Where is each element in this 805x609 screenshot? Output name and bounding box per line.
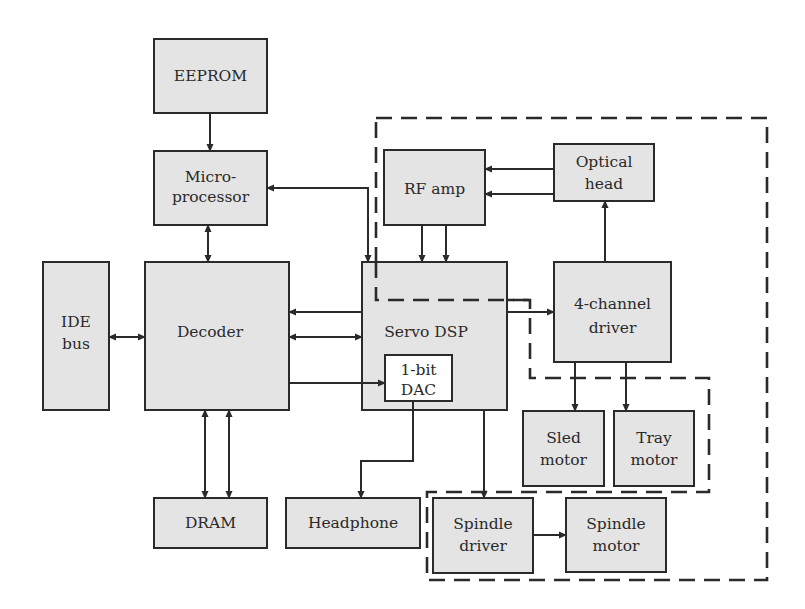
block-4-channel-driver: 4-channel driver [554, 262, 671, 362]
tray-motor-label-1: Tray [636, 429, 672, 447]
block-spindle-driver: Spindle driver [433, 498, 533, 573]
svg-text:Headphone: Headphone [308, 514, 398, 532]
svg-text:Tray: Tray [636, 429, 672, 447]
block-eeprom: EEPROM [154, 39, 267, 113]
four-channel-driver-label-2: driver [589, 319, 637, 337]
svg-text:driver: driver [589, 319, 637, 337]
dac-label-2: DAC [401, 381, 436, 399]
microprocessor-label-1: Micro- [185, 168, 237, 186]
svg-text:Servo DSP: Servo DSP [384, 323, 468, 341]
ide-bus-label-2: bus [62, 335, 90, 353]
svg-text:Decoder: Decoder [177, 323, 244, 341]
block-decoder: Decoder [145, 262, 289, 410]
block-sled-motor: Sled motor [523, 411, 604, 486]
spindle-driver-label-2: driver [459, 537, 507, 555]
svg-text:motor: motor [593, 537, 641, 555]
svg-text:Spindle: Spindle [453, 515, 513, 533]
eeprom-label: EEPROM [174, 67, 247, 85]
block-dram: DRAM [154, 498, 267, 548]
sled-motor-label-2: motor [540, 451, 588, 469]
spindle-driver-label-1: Spindle [453, 515, 513, 533]
svg-text:Sled: Sled [546, 429, 581, 447]
svg-text:Optical: Optical [576, 153, 633, 171]
tray-motor-label-2: motor [631, 451, 679, 469]
svg-text:driver: driver [459, 537, 507, 555]
wire-dac-headphone [361, 401, 413, 498]
optical-head-label-1: Optical [576, 153, 633, 171]
block-1-bit-dac: 1-bit DAC [385, 355, 452, 401]
block-tray-motor: Tray motor [614, 411, 694, 486]
svg-text:DRAM: DRAM [185, 514, 236, 532]
block-spindle-motor: Spindle motor [566, 498, 666, 572]
dram-label: DRAM [185, 514, 236, 532]
ide-bus-label-1: IDE [61, 313, 91, 331]
svg-text:RF amp: RF amp [404, 180, 465, 198]
block-headphone: Headphone [286, 498, 420, 548]
optical-head-label-2: head [585, 175, 623, 193]
svg-text:4-channel: 4-channel [574, 295, 651, 313]
svg-text:head: head [585, 175, 623, 193]
microprocessor-label-2: processor [172, 188, 250, 206]
spindle-motor-label-2: motor [593, 537, 641, 555]
svg-text:bus: bus [62, 335, 90, 353]
dac-label-1: 1-bit [400, 361, 437, 379]
wire-micro-servo [267, 188, 368, 262]
block-optical-head: Optical head [554, 144, 654, 201]
spindle-motor-label-1: Spindle [586, 515, 646, 533]
svg-text:motor: motor [631, 451, 679, 469]
servo-dsp-label: Servo DSP [384, 323, 468, 341]
svg-text:motor: motor [540, 451, 588, 469]
headphone-label: Headphone [308, 514, 398, 532]
svg-text:1-bit: 1-bit [400, 361, 437, 379]
svg-text:processor: processor [172, 188, 250, 206]
svg-text:Micro-: Micro- [185, 168, 237, 186]
svg-text:EEPROM: EEPROM [174, 67, 247, 85]
svg-text:DAC: DAC [401, 381, 436, 399]
rf-amp-label: RF amp [404, 180, 465, 198]
svg-text:Spindle: Spindle [586, 515, 646, 533]
block-rf-amp: RF amp [384, 150, 485, 225]
decoder-label: Decoder [177, 323, 244, 341]
svg-text:IDE: IDE [61, 313, 91, 331]
block-ide-bus: IDE bus [43, 262, 109, 410]
cd-rom-block-diagram: EEPROM Micro- processor IDE bus Decoder … [0, 0, 805, 609]
block-microprocessor: Micro- processor [154, 151, 267, 225]
sled-motor-label-1: Sled [546, 429, 581, 447]
four-channel-driver-label-1: 4-channel [574, 295, 651, 313]
